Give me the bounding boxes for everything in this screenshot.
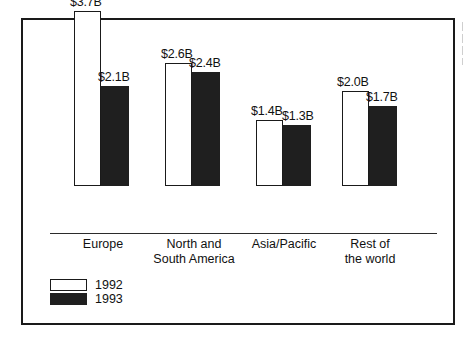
scan-artifact xyxy=(462,58,463,65)
bar-restofworld-1993[interactable] xyxy=(369,106,397,186)
category-label-line1: Rest of xyxy=(350,237,390,251)
bar-americas-1992[interactable] xyxy=(165,63,192,186)
bar-chart-figure: $3.7B $2.1B Europe $2.6B $2.4B North and… xyxy=(0,0,473,349)
legend-label-1993: 1993 xyxy=(95,292,123,306)
bar-value-europe-1993: $2.1B xyxy=(98,70,130,84)
bar-value-americas-1992: $2.6B xyxy=(161,47,193,61)
scan-artifact xyxy=(462,22,463,31)
legend-item-1993[interactable]: 1993 xyxy=(50,292,123,305)
bar-europe-1993[interactable] xyxy=(101,86,129,186)
bar-value-restofworld-1993: $1.7B xyxy=(366,90,398,104)
category-label-restofworld: Rest of the world xyxy=(330,237,410,266)
bar-europe-1992[interactable] xyxy=(74,11,101,186)
chart-frame-border: $3.7B $2.1B Europe $2.6B $2.4B North and… xyxy=(21,18,455,325)
bar-americas-1993[interactable] xyxy=(192,72,220,186)
category-label-europe: Europe xyxy=(64,237,142,252)
legend-swatch-1993-icon xyxy=(50,293,87,305)
scan-artifact xyxy=(462,34,463,43)
bar-restofworld-1992[interactable] xyxy=(342,91,369,186)
bar-value-asiapacific-1992: $1.4B xyxy=(251,104,283,118)
bar-asiapacific-1993[interactable] xyxy=(283,125,311,186)
category-label-line1: North and xyxy=(167,237,222,251)
category-label-line2: the world xyxy=(345,252,396,266)
category-label-asiapacific: Asia/Pacific xyxy=(242,237,326,252)
bar-value-europe-1992: $3.7B xyxy=(70,0,102,9)
legend-item-1992[interactable]: 1992 xyxy=(50,278,123,291)
category-label-line1: Europe xyxy=(83,237,123,251)
scan-artifact xyxy=(462,46,463,55)
chart-legend: 1992 1993 xyxy=(50,278,123,306)
bar-value-americas-1993: $2.4B xyxy=(189,56,221,70)
bar-asiapacific-1992[interactable] xyxy=(256,120,283,186)
category-label-americas: North and South America xyxy=(147,237,241,266)
legend-label-1992: 1992 xyxy=(95,278,123,292)
category-label-line2: South America xyxy=(153,252,234,266)
bar-group-restofworld: $2.0B $1.7B Rest of the world xyxy=(332,20,442,323)
category-label-line1: Asia/Pacific xyxy=(252,237,317,251)
plot-area: $3.7B $2.1B Europe $2.6B $2.4B North and… xyxy=(23,20,453,323)
legend-swatch-1992-icon xyxy=(50,279,87,291)
bar-value-asiapacific-1993: $1.3B xyxy=(282,109,314,123)
bar-value-restofworld-1992: $2.0B xyxy=(337,75,369,89)
